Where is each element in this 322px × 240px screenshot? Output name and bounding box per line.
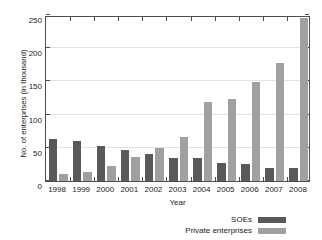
legend-swatch <box>258 228 286 234</box>
x-axis-title: Year <box>45 198 310 207</box>
bar-soes-2004 <box>193 158 202 181</box>
bar-soes-2001 <box>121 150 130 181</box>
bar-soes-1998 <box>49 139 58 181</box>
y-axis-title: No. of enterprises (in thousand) <box>19 19 28 189</box>
plot-area: 050100150200250 <box>45 16 310 182</box>
bars-layer <box>46 17 309 181</box>
x-axis-tick-label: 2004 <box>193 185 211 194</box>
x-axis-tick-label: 2008 <box>289 185 307 194</box>
bar-private-enterprises-2005 <box>228 99 237 181</box>
y-axis-tick-mark <box>305 14 309 15</box>
x-axis-tick-label: 2007 <box>265 185 283 194</box>
bar-private-enterprises-2000 <box>107 166 116 181</box>
x-axis-tick-label: 2001 <box>120 185 138 194</box>
legend-swatch <box>258 217 286 223</box>
bar-soes-2002 <box>145 154 154 181</box>
bar-soes-1999 <box>73 141 82 181</box>
bar-private-enterprises-2008 <box>300 18 309 181</box>
bar-soes-2003 <box>169 158 178 181</box>
bar-private-enterprises-1999 <box>83 172 92 181</box>
bar-soes-2000 <box>97 146 106 181</box>
x-axis-tick-label: 2002 <box>145 185 163 194</box>
bar-soes-2007 <box>265 168 274 181</box>
legend-label: SOEs <box>231 215 252 224</box>
x-axis-tick-label: 1998 <box>48 185 66 194</box>
bar-private-enterprises-2003 <box>180 137 189 181</box>
legend-item: SOEs <box>45 214 310 225</box>
bar-private-enterprises-2004 <box>204 102 213 181</box>
x-axis-tick-label: 1999 <box>72 185 90 194</box>
bar-private-enterprises-2001 <box>131 157 140 181</box>
x-axis-tick-label: 2006 <box>241 185 259 194</box>
x-axis-tick-label: 2000 <box>96 185 114 194</box>
y-axis-tick-mark <box>46 14 50 15</box>
x-axis-tick-label: 2005 <box>217 185 235 194</box>
legend-item: Private enterprises <box>45 225 310 236</box>
bar-soes-2006 <box>241 164 250 181</box>
legend: SOEsPrivate enterprises <box>45 214 310 236</box>
bar-private-enterprises-2007 <box>276 63 285 181</box>
x-axis-tick-label: 2003 <box>169 185 187 194</box>
bar-private-enterprises-1998 <box>59 174 68 181</box>
bar-private-enterprises-2002 <box>155 148 164 181</box>
bar-soes-2005 <box>217 163 226 181</box>
bar-private-enterprises-2006 <box>252 82 261 181</box>
bar-soes-2008 <box>289 168 298 181</box>
legend-label: Private enterprises <box>185 226 252 235</box>
bar-chart-figure: No. of enterprises (in thousand) 0501001… <box>0 0 322 240</box>
